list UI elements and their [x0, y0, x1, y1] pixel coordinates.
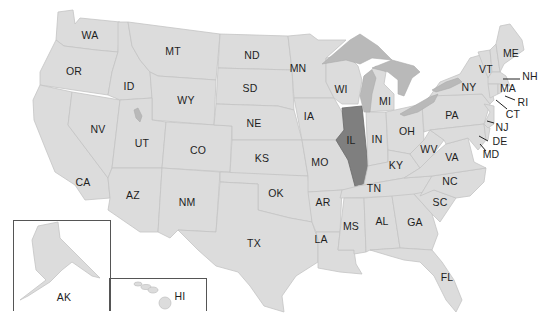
label-ga: GA: [407, 216, 423, 228]
label-oh: OH: [399, 125, 415, 137]
label-nv: NV: [91, 123, 106, 135]
label-nj: NJ: [495, 121, 508, 133]
label-mi: MI: [379, 95, 391, 107]
label-tn: TN: [367, 182, 381, 194]
label-mn: MN: [290, 62, 307, 74]
label-fl: FL: [441, 271, 454, 283]
label-wa: WA: [82, 29, 99, 41]
label-or: OR: [66, 65, 82, 77]
label-ca: CA: [76, 176, 91, 188]
label-me: ME: [503, 47, 519, 59]
label-nh: NH: [522, 70, 538, 82]
label-nd: ND: [244, 49, 260, 61]
label-ia: IA: [304, 110, 314, 122]
label-sd: SD: [243, 82, 258, 94]
label-wy: WY: [177, 94, 194, 106]
label-tx: TX: [247, 237, 261, 249]
label-mt: MT: [165, 45, 181, 57]
label-md: MD: [483, 148, 500, 160]
label-la: LA: [314, 233, 327, 245]
label-ma: MA: [500, 82, 516, 94]
label-nc: NC: [442, 175, 458, 187]
state-ct[interactable]: [488, 84, 498, 98]
label-ut: UT: [135, 137, 149, 149]
label-hi: HI: [175, 290, 186, 302]
label-ks: KS: [255, 152, 269, 164]
label-ar: AR: [316, 196, 331, 208]
label-in: IN: [372, 133, 383, 145]
label-sc: SC: [433, 196, 448, 208]
label-wi: WI: [334, 83, 347, 95]
label-nm: NM: [179, 196, 196, 208]
label-ak: AK: [57, 291, 71, 303]
label-mo: MO: [311, 156, 328, 168]
label-ri: RI: [518, 96, 529, 108]
label-de: DE: [493, 135, 508, 147]
label-ny: NY: [462, 81, 477, 93]
label-ms: MS: [343, 220, 359, 232]
label-il: IL: [346, 134, 355, 146]
hawaii-inset-box: [109, 278, 207, 311]
label-id: ID: [124, 80, 135, 92]
label-pa: PA: [445, 109, 459, 121]
label-co: CO: [190, 144, 206, 156]
label-ct: CT: [506, 108, 520, 120]
label-ok: OK: [268, 187, 284, 199]
state-ia[interactable]: [294, 98, 344, 140]
label-az: AZ: [126, 189, 140, 201]
label-wv: WV: [420, 143, 437, 155]
label-ne: NE: [247, 117, 262, 129]
label-vt: VT: [479, 63, 493, 75]
label-al: AL: [375, 215, 388, 227]
label-va: VA: [445, 151, 459, 163]
label-ky: KY: [389, 159, 403, 171]
